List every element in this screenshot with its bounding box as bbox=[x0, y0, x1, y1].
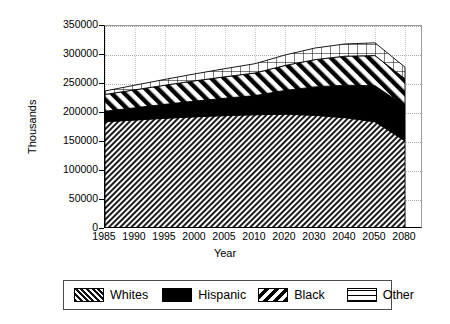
x-tick-label: 2080 bbox=[384, 231, 424, 242]
legend-item-black[interactable]: Black bbox=[246, 281, 325, 309]
chart-root: Thousands 050000100000150000200000250000… bbox=[0, 0, 450, 324]
area-series-whites bbox=[105, 114, 405, 227]
plot-frame bbox=[104, 25, 422, 228]
legend-label: Hispanic bbox=[198, 288, 246, 302]
legend-item-hispanic[interactable]: Hispanic bbox=[148, 281, 246, 309]
legend-swatch-black-icon bbox=[258, 288, 288, 302]
plot-clip bbox=[105, 26, 421, 227]
y-tick-label: 200000 bbox=[2, 106, 98, 116]
chart-area: Thousands 050000100000150000200000250000… bbox=[0, 0, 450, 268]
legend-swatch-hispanic-icon bbox=[162, 288, 192, 302]
legend-item-whites[interactable]: Whites bbox=[64, 281, 148, 309]
y-tick-label: 300000 bbox=[2, 48, 98, 58]
chart-legend: WhitesHispanicBlackOther bbox=[63, 280, 392, 310]
legend-swatch-whites-icon bbox=[74, 288, 104, 302]
x-axis-label: Year bbox=[0, 247, 450, 259]
legend-label: Black bbox=[294, 288, 325, 302]
legend-label: Whites bbox=[110, 288, 148, 302]
legend-label: Other bbox=[383, 288, 414, 302]
y-tick-label: 50000 bbox=[2, 193, 98, 203]
legend-item-other[interactable]: Other bbox=[325, 281, 414, 309]
y-tick-label: 100000 bbox=[2, 164, 98, 174]
y-tick-label: 150000 bbox=[2, 135, 98, 145]
stacked-area-series bbox=[105, 26, 421, 227]
y-tick-mark bbox=[99, 228, 104, 229]
legend-swatch-other-icon bbox=[347, 288, 377, 302]
y-tick-label: 250000 bbox=[2, 77, 98, 87]
y-tick-label: 350000 bbox=[2, 19, 98, 29]
